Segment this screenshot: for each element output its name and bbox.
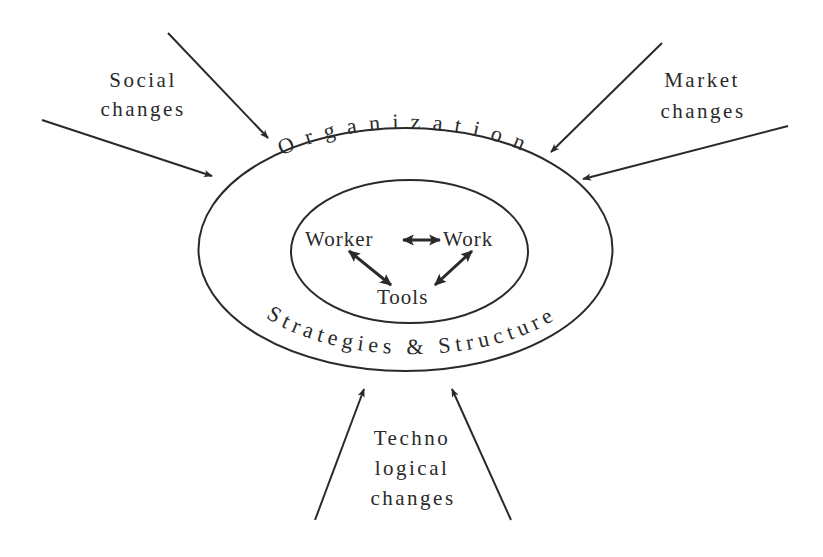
market-changes-label-line2: changes <box>660 99 745 123</box>
social-changes-label-line2: changes <box>100 97 185 121</box>
tech-changes-label-line3: changes <box>370 486 455 510</box>
market-arrow-lower <box>583 126 788 179</box>
worker-tools-link-arrow <box>349 251 391 285</box>
social-changes-label-line1: Social <box>109 68 177 92</box>
tech-changes-label-line2: logical <box>375 456 450 480</box>
organization-change-diagram: Organization Strategies & Structure Work… <box>0 0 823 557</box>
market-arrow-upper <box>551 43 662 152</box>
organization-label: Organization <box>274 109 541 160</box>
social-arrow-upper <box>168 33 268 138</box>
tech-arrow-right <box>452 389 511 520</box>
social-arrow-lower <box>42 120 212 176</box>
node-work: Work <box>443 227 493 251</box>
work-tools-link-arrow <box>435 251 472 285</box>
market-changes-label-line1: Market <box>664 68 740 92</box>
tech-arrow-left <box>315 389 364 520</box>
tech-changes-label-line1: Techno <box>374 426 451 450</box>
node-worker: Worker <box>305 227 373 251</box>
strategies-structure-label: Strategies & Structure <box>263 300 561 359</box>
node-tools: Tools <box>377 285 428 309</box>
